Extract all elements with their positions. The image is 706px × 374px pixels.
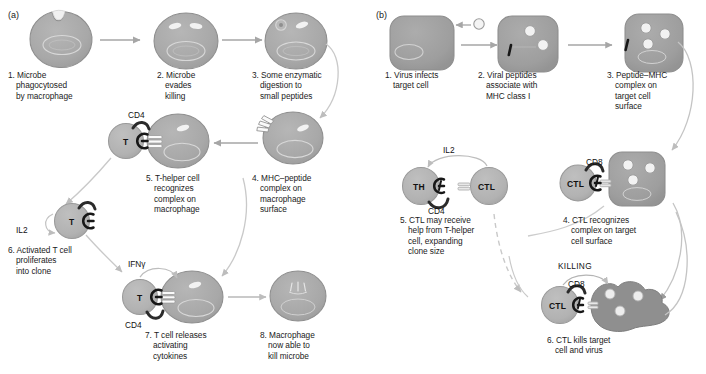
cell-macrophage-1 [30,10,92,67]
arrow-il2-loop [46,214,55,233]
caption-a4: 4. MHC–peptide complex on macrophage sur… [252,173,352,215]
caption-a6: 6. Activated T cell proliferates into cl… [8,245,116,276]
arrow-ifng [140,268,177,278]
cell-macrophage-2 [154,13,218,69]
diagram-graphics [0,0,706,374]
caption-b5: 5. CTL may receive help from T-helper ce… [400,215,520,257]
arrow-a5-a6 [66,158,111,204]
caption-b6: 6. CTL kills target cell and virus [547,335,659,356]
cell-label-ctl-6: CTL [549,301,566,311]
label-cd4-bottom: CD4 [125,320,142,330]
cell-label-ctl-4: CTL [567,179,584,189]
arrow-il2-b [428,156,487,167]
cell-target-4 [600,152,665,206]
caption-b4: 4. CTL recognizes complex on target cell… [563,215,681,246]
label-ifng: IFNγ [128,259,146,269]
panel-b-label: (b) [376,10,387,20]
cell-macrophage-7 [161,271,223,323]
cell-label-t-6: T [69,217,74,227]
label-cd4-b: CD4 [428,206,445,216]
cell-label-t-7: T [137,293,142,303]
immunology-figure: (a) (b) 1. Microbe phagocytosed by macro… [0,0,706,374]
caption-b3: 3. Peptide–MHC complex on target cell su… [607,70,705,112]
cell-th-5 [403,168,449,208]
caption-a3: 3. Some enzymatic digestion to small pep… [252,70,360,101]
virus-particle-1 [474,19,484,29]
cell-label-th: TH [413,182,425,192]
arrow-b5-tail [509,256,528,297]
cell-macrophage-8 [270,271,326,321]
label-il2-b: IL2 [443,145,455,155]
caption-b2: 2. Viral peptides associate with MHC cla… [478,70,570,101]
cell-target-3 [625,14,683,72]
cell-macrophage-3 [265,13,327,69]
label-cd4-top: CD4 [128,110,145,120]
caption-a8: 8. Macrophage now able to kill microbe [260,330,358,361]
caption-a2: 2. Microbe evades killing [157,70,245,101]
cell-dying-target-6 [591,282,669,332]
cell-label-t-5: T [123,137,128,147]
cell-macrophage-4 [257,112,323,164]
label-cd8-b4: CD8 [586,157,603,167]
caption-a7: 7. T cell releases activating cytokines [145,330,253,361]
label-killing: KILLING [558,261,592,271]
caption-b1: 1. Virus infects target cell [385,70,479,91]
caption-a5: 5. T-helper cell recognizes complex on m… [146,173,249,215]
label-cd8-b6: CD8 [568,279,585,289]
label-il2: IL2 [16,225,28,235]
cell-target-2 [498,16,558,72]
cell-macrophage-5 [147,114,209,168]
cell-label-ctl-5: CTL [478,182,495,192]
cell-target-1 [390,16,454,70]
caption-a1: 1. Microbe phagocytosed by macrophage [8,70,102,101]
cell-t-helper-5 [109,122,150,158]
panel-a-label: (a) [8,10,19,20]
